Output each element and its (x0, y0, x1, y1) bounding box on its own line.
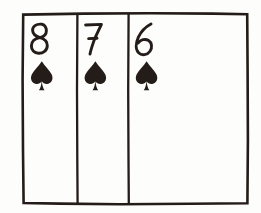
card-1-suit-symbol: ♠ (31, 60, 55, 88)
card-fan-scene: 8 ♠ 7 ♠ 6 ♠ (0, 0, 261, 213)
card-3-suit-symbol: ♠ (136, 60, 160, 88)
card-2-rank: 7 (84, 22, 110, 58)
card-2[interactable]: 7 ♠ (77, 13, 128, 204)
card-3-rank: 6 (135, 22, 161, 58)
card-2-suit-symbol: ♠ (85, 60, 109, 88)
card-1-rank: 8 (30, 22, 56, 58)
card-1[interactable]: 8 ♠ (22, 13, 77, 204)
card-3[interactable]: 6 ♠ (128, 13, 248, 204)
